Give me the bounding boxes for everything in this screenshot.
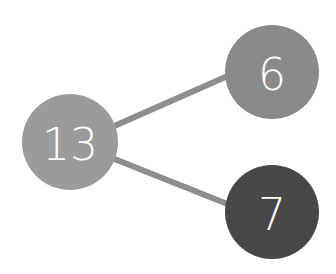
node-part-top: 6: [225, 25, 319, 119]
nodes: 13 6 7: [22, 25, 319, 259]
edge-whole-to-top: [112, 75, 230, 127]
edges: [112, 75, 230, 205]
node-whole-label: 13: [42, 119, 98, 170]
edge-whole-to-bottom: [112, 158, 230, 205]
node-part-top-label: 6: [258, 49, 286, 100]
node-part-bottom-label: 7: [258, 189, 286, 240]
node-part-bottom: 7: [225, 165, 319, 259]
number-bond-diagram: 13 6 7: [0, 0, 336, 274]
node-whole: 13: [22, 94, 118, 190]
